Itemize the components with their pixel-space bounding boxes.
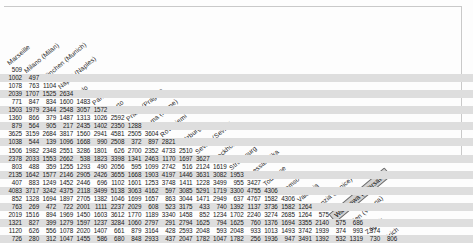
distance-cell: 1288 (107, 122, 141, 130)
table-row: 2135164215772146290524263655166819034197… (0, 171, 473, 179)
table-row: 2039170715252634 (0, 90, 473, 98)
distance-cell: 3427 (227, 179, 261, 187)
table-row: 10385441391096166899025083728972821 (0, 138, 473, 146)
distance-cell: 1104 (22, 82, 56, 90)
distance-cell: 806 (363, 235, 397, 243)
table-row: 509 (0, 66, 473, 74)
distance-cell: 1619 (193, 163, 227, 171)
table-row: 1120626556107820201407661879316442825932… (0, 227, 473, 235)
distance-cell: 2634 (39, 90, 73, 98)
distance-cell: 575 (295, 211, 329, 219)
table-row: 4078831249145224466961102160112533748141… (0, 179, 473, 187)
table-row: 8521328169418972705138210461699165786330… (0, 195, 473, 203)
distance-cell: 1953 (210, 171, 244, 179)
table-row: 2019151689419691450160336121770118933401… (0, 211, 473, 219)
distance-cell: 497 (5, 74, 39, 82)
table-row: 4083371732424375211834995138306341625973… (0, 187, 473, 195)
table-row: 13608663791487131310262592 (0, 114, 473, 122)
table-row: 7262803121047145558668084829334372047178… (0, 235, 473, 243)
distance-cell: 4306 (261, 195, 295, 203)
distance-cell: 2821 (141, 138, 175, 146)
distance-cell: 3604 (124, 130, 158, 138)
distance-cell: 509 (0, 66, 22, 74)
distance-cell: 2592 (90, 114, 124, 122)
table-row: 8034883591255129349020565951099274251621… (0, 163, 473, 171)
table-row: 362531592684381715602941458125053604 (0, 130, 473, 138)
distance-cell: 686 (329, 219, 363, 227)
table-row: 77184783416001483 (0, 98, 473, 106)
table-row: 1002497 (0, 74, 473, 82)
distance-cell: 1483 (56, 98, 90, 106)
table-row: 7632694727222001111122372029608523317543… (0, 203, 473, 211)
distance-cell: 1572 (73, 106, 107, 114)
table-row: 1321827399127915971237328410602797291279… (0, 219, 473, 227)
distance-cell: 3627 (176, 155, 210, 163)
distance-cell: 4306 (244, 187, 278, 195)
table-row: 8795649052172435140223501288 (0, 122, 473, 130)
table-row: 2378203315532662538182333981341246311701… (0, 155, 473, 163)
table-row: 10787631104 (0, 82, 473, 90)
table-row: 150319792344254830571572 (0, 106, 473, 114)
column-header-marseille: Marseille (6, 43, 31, 66)
table-row: 1506198223482551328618016262700235247332… (0, 147, 473, 155)
distance-cell: 374 (346, 227, 380, 235)
distance-cell: 2510 (159, 147, 193, 155)
distance-cell: 1264 (278, 203, 312, 211)
